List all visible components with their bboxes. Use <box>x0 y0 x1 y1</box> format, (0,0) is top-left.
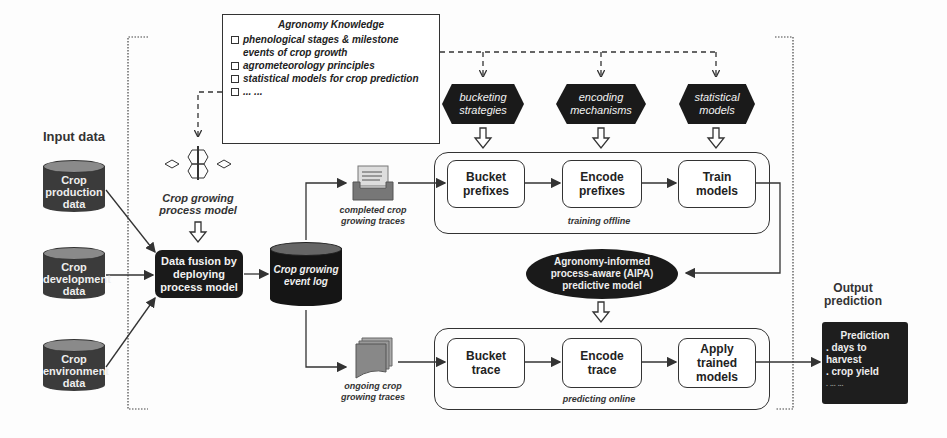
knowledge-title: Agronomy Knowledge <box>223 19 439 30</box>
aipa-predictive-model[interactable]: Agronomy-informedprocess-aware (AIPA)pre… <box>526 249 678 299</box>
data-fusion-box[interactable]: Data fusion bydeployingprocess model <box>155 250 243 298</box>
encode-trace-step[interactable]: Encodetrace <box>562 338 642 388</box>
output-item: . ... ... <box>826 378 904 390</box>
crop-development-data[interactable]: Cropdevelopmentdata <box>43 247 105 303</box>
encode-prefixes-step[interactable]: Encodeprefixes <box>562 160 642 208</box>
knowledge-item: ... ... <box>231 85 419 98</box>
completed-traces-icon <box>353 166 393 200</box>
crop-growing-event-log[interactable]: Crop growingevent log <box>270 242 342 308</box>
output-heading: Outputprediction <box>808 282 898 308</box>
checkbox-icon <box>231 62 239 70</box>
bucket-prefixes-step[interactable]: Bucketprefixes <box>447 160 525 208</box>
training-offline-caption: training offline <box>534 216 664 226</box>
output-item: . crop yield <box>826 366 904 378</box>
statistical-models[interactable]: statisticalmodels <box>679 84 755 124</box>
crop-environment-data[interactable]: Cropenvironmentdata <box>43 339 105 395</box>
completed-traces-label: completed cropgrowing traces <box>336 205 410 227</box>
checkbox-icon <box>231 36 239 44</box>
bucket-trace-step[interactable]: Buckettrace <box>447 338 525 388</box>
checkbox-icon <box>231 88 239 96</box>
apply-trained-models-step[interactable]: Applytrainedmodels <box>678 338 756 388</box>
knowledge-item-cont: events of crop growth <box>231 46 419 59</box>
knowledge-item: agrometeorology principles <box>231 59 419 72</box>
input-data-heading: Input data <box>34 129 114 144</box>
predicting-online-caption: predicting online <box>534 394 664 404</box>
process-model-label: Crop growingprocess model <box>152 192 244 216</box>
encoding-mechanisms[interactable]: encodingmechanisms <box>556 84 646 124</box>
knowledge-list: phenological stages & milestone events o… <box>231 33 419 98</box>
ongoing-traces-icon <box>356 338 392 378</box>
crop-production-data[interactable]: Cropproductiondata <box>43 160 105 216</box>
knowledge-item: statistical models for crop prediction <box>231 72 419 85</box>
knowledge-item: phenological stages & milestone <box>231 33 419 46</box>
ongoing-traces-label: ongoing cropgrowing traces <box>336 381 410 403</box>
output-item: . days to harvest <box>826 342 904 366</box>
prediction-output[interactable]: Prediction . days to harvest . crop yiel… <box>822 322 908 404</box>
process-model-icon <box>165 146 231 180</box>
train-models-step[interactable]: Trainmodels <box>678 160 756 208</box>
agronomy-knowledge-scroll[interactable]: Agronomy Knowledge phenological stages &… <box>222 14 440 144</box>
bucketing-strategies[interactable]: bucketingstrategies <box>442 84 524 124</box>
checkbox-icon <box>231 75 239 83</box>
